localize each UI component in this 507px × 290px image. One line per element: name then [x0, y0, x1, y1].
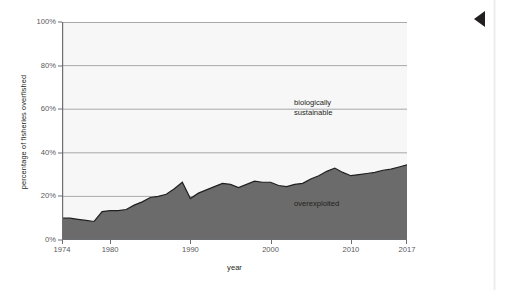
- area-chart-svg: [62, 22, 407, 240]
- x-axis-title: year: [62, 263, 407, 272]
- plot-area: 100% 80% 60% 40% 20% 0% 1974 1980 1990 2…: [62, 22, 407, 240]
- y-tick-label-100: 100%: [10, 18, 56, 26]
- x-tick-label-1980: 1980: [102, 246, 119, 254]
- x-tick-label-2017: 2017: [399, 246, 416, 254]
- y-tick-label-40: 40%: [10, 149, 56, 157]
- x-tick-mark-2000: [271, 240, 272, 244]
- y-tick-mark-40: [58, 152, 62, 153]
- overexploited-label: overexploited: [294, 199, 339, 209]
- x-tick-label-1990: 1990: [182, 246, 199, 254]
- x-tick-mark-2017: [406, 240, 407, 244]
- x-tick-mark-1980: [110, 240, 111, 244]
- x-tick-mark-1990: [190, 240, 191, 244]
- y-tick-mark-100: [58, 22, 62, 23]
- x-tick-mark-2010: [351, 240, 352, 244]
- x-tick-mark-1974: [62, 240, 63, 244]
- x-tick-label-2010: 2010: [342, 246, 359, 254]
- x-tick-label-1974: 1974: [54, 246, 71, 254]
- fisheries-overfished-chart: percentage of fisheries overfished: [0, 0, 460, 290]
- y-tick-label-20: 20%: [10, 193, 56, 201]
- y-tick-mark-20: [58, 196, 62, 197]
- biologically-sustainable-label: biologically sustainable: [294, 98, 332, 117]
- page-edge-divider: [493, 0, 496, 290]
- y-axis-title: percentage of fisheries overfished: [18, 22, 30, 242]
- page-root: percentage of fisheries overfished: [0, 0, 507, 290]
- y-tick-label-60: 60%: [10, 105, 56, 113]
- y-tick-label-80: 80%: [10, 62, 56, 70]
- prev-page-arrow-icon[interactable]: [474, 11, 485, 27]
- x-tick-label-2000: 2000: [262, 246, 279, 254]
- y-tick-mark-60: [58, 109, 62, 110]
- y-tick-mark-80: [58, 65, 62, 66]
- y-tick-label-0: 0%: [10, 236, 56, 244]
